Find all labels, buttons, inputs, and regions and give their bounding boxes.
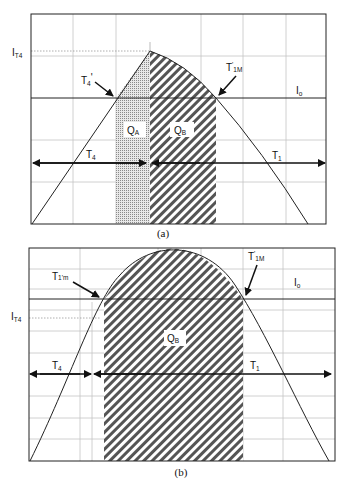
t4-prime-pointer bbox=[95, 82, 113, 96]
it4-label-a: IT4 bbox=[12, 47, 23, 59]
t1m-lower-pointer bbox=[73, 282, 99, 297]
t4-label-a: T4 bbox=[86, 149, 96, 161]
t1m-lower-label: T1'm bbox=[52, 271, 68, 282]
t1m-prime-pointer-b bbox=[246, 265, 257, 295]
caption-b: (b) bbox=[175, 466, 188, 479]
it4-label-b: IT4 bbox=[11, 311, 22, 323]
caption-a: (a) bbox=[157, 227, 170, 240]
io-label-a: Io bbox=[296, 85, 303, 97]
t1m-prime-pointer bbox=[219, 76, 236, 95]
panel-a: IT4 T4' T'1M Io QA QB T4 T1 (a) bbox=[12, 14, 326, 240]
io-label-b: Io bbox=[294, 277, 301, 289]
t4-prime-label: T4' bbox=[81, 72, 93, 87]
t1-label-b: T1 bbox=[250, 360, 260, 372]
figure: IT4 T4' T'1M Io QA QB T4 T1 (a) bbox=[0, 0, 347, 489]
t1-label-a: T1 bbox=[272, 150, 282, 162]
t1m-prime-label-b: T'1M bbox=[248, 250, 264, 262]
t1m-prime-label-a: T'1M bbox=[226, 61, 242, 73]
qa-region bbox=[116, 51, 150, 224]
panel-b: IT4 T1'm T'1M Io QB T4 T1 (b) bbox=[11, 248, 335, 479]
qb-region-b bbox=[104, 249, 243, 462]
qb-region bbox=[150, 51, 216, 224]
t4-label-b: T4 bbox=[52, 360, 62, 372]
